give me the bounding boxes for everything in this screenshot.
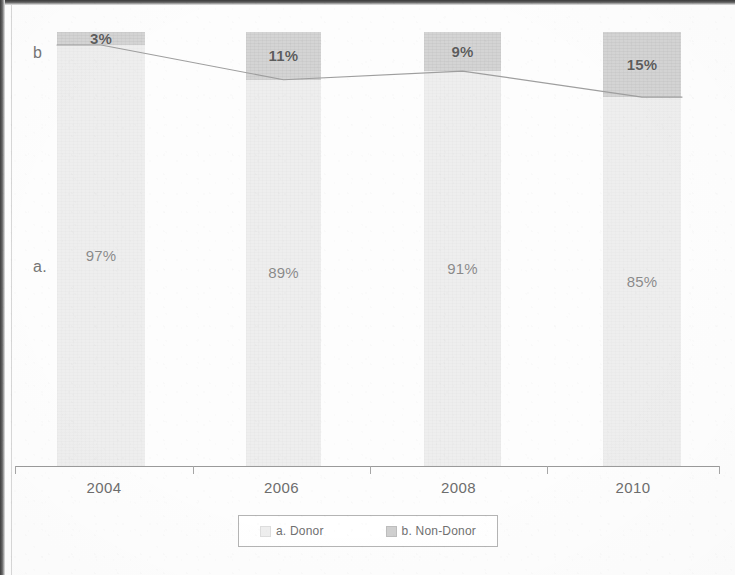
x-axis-tick-0	[15, 466, 16, 474]
bar-segment-non-donor-2008: 9%	[424, 32, 501, 71]
legend-item-donor: a. Donor	[260, 524, 324, 538]
bar-value-label-donor-2004: 97%	[86, 247, 117, 264]
legend-label-non-donor: b. Non-Donor	[402, 524, 476, 538]
connector-line	[57, 45, 682, 97]
bar-segment-non-donor-2010: 15%	[603, 32, 681, 97]
bar-segment-donor-2010: 85%	[603, 97, 681, 466]
x-axis-label-2004: 2004	[15, 479, 193, 496]
bar-segment-donor-2006: 89%	[246, 80, 321, 466]
x-axis-label-2010: 2010	[547, 479, 719, 496]
x-axis-line	[15, 466, 720, 467]
x-axis-tick-3	[547, 466, 548, 474]
bar-value-label-non-donor-2004: 3%	[90, 30, 112, 47]
x-axis-tick-1	[193, 466, 194, 474]
bar-segment-non-donor-2006: 11%	[246, 32, 321, 80]
legend-label-donor: a. Donor	[276, 524, 324, 538]
x-axis-label-2008: 2008	[370, 479, 547, 496]
legend-swatch-donor-icon	[260, 526, 271, 537]
x-axis-tick-2	[370, 466, 371, 474]
chart-legend: a. Donor b. Non-Donor	[238, 515, 498, 547]
chart-screenshot: b a. 97%3%89%11%91%9%85%15% 200420062008…	[0, 0, 735, 575]
bar-value-label-donor-2006: 89%	[268, 264, 299, 281]
x-axis-label-2006: 2006	[193, 479, 370, 496]
bar-group-2008: 91%9%	[424, 32, 501, 466]
bar-segment-non-donor-2004: 3%	[57, 32, 145, 45]
row-label-non-donor: b	[33, 44, 42, 62]
bar-value-label-non-donor-2008: 9%	[451, 43, 473, 60]
bar-value-label-donor-2010: 85%	[627, 273, 658, 290]
bar-group-2006: 89%11%	[246, 32, 321, 466]
plot-area: b a. 97%3%89%11%91%9%85%15% 200420062008…	[0, 0, 735, 575]
bar-group-2004: 97%3%	[57, 32, 145, 466]
legend-swatch-non-donor-icon	[386, 526, 397, 537]
x-axis-tick-4	[719, 466, 720, 474]
bar-value-label-donor-2008: 91%	[447, 260, 478, 277]
bar-segment-donor-2008: 91%	[424, 71, 501, 466]
bar-segment-donor-2004: 97%	[57, 45, 145, 466]
bar-value-label-non-donor-2006: 11%	[269, 47, 299, 64]
legend-item-non-donor: b. Non-Donor	[386, 524, 476, 538]
bar-group-2010: 85%15%	[603, 32, 681, 466]
bar-value-label-non-donor-2010: 15%	[627, 56, 658, 73]
row-label-donor: a.	[33, 258, 47, 276]
